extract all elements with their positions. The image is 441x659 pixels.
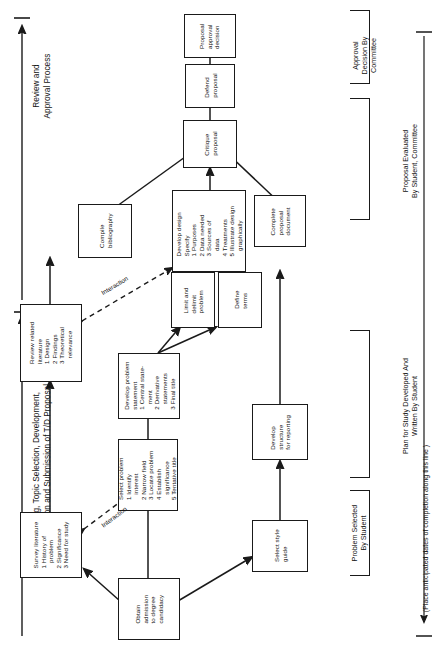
node-label: Defend proposal [202,74,217,99]
node-select-problem[interactable]: Select problem 1 Identify interest 2 Nar… [118,439,178,511]
node-obtain-admission[interactable]: Obtain admission to degree candidacy [118,578,180,640]
node-complete-proposal-document[interactable]: Complete proposal document [254,195,306,247]
node-label: Limit and delimit problem [182,287,205,313]
bracket-label-approval-decision: Approval Decision By Committee [351,15,378,97]
node-label: Critique proposal [202,132,217,157]
node-label: Develop problem statement 1 Central stat… [122,362,175,410]
node-label: Complete proposal document [269,207,292,235]
node-compile-bibliography[interactable]: Compile bibliography [78,204,132,258]
bracket-label-plan-for-study: Plan for Study Developed And Written By … [401,326,419,486]
node-develop-problem-statement[interactable]: Develop problem statement 1 Central stat… [118,353,180,419]
node-limit-delimit-problem[interactable]: Limit and delimit problem [171,272,215,328]
node-label: Define terms [232,291,247,310]
node-define-terms[interactable]: Define terms [218,272,262,328]
node-review-related-literature[interactable]: Review related literature 1 Design 2 Fin… [20,304,82,382]
bracket-label-proposal-evaluated: Proposal Evaluated By Student, Committee [401,83,419,239]
timeline-note: (Place anticipated dates of completion a… [422,419,429,639]
node-label: Select style guide [272,530,287,563]
node-label: Develop design Specify 1 Purposes 2 Data… [175,206,243,256]
phase-two-title: Review and Approval Process [31,26,53,146]
node-develop-structure-for-reporting[interactable]: Develop structure for reporting [252,404,308,460]
node-survey-literature[interactable]: Survey literature 1 History of problem 2… [20,512,82,578]
node-label: Proposal approval decision [199,23,222,48]
edge-label-interaction-lower: Interaction [100,505,128,529]
bracket-proposal-evaluated [350,98,370,220]
flowchart-canvas: Planning, Topic Selection, Development, … [0,0,441,659]
node-proposal-approval-decision[interactable]: Proposal approval decision [184,14,236,58]
node-defend-proposal[interactable]: Defend proposal [185,64,235,108]
edge-label-interaction-upper: Interaction [100,275,129,296]
node-critique-proposal[interactable]: Critique proposal [183,120,237,168]
node-label: Develop structure for reporting [269,415,292,450]
node-select-style-guide[interactable]: Select style guide [252,520,308,572]
node-label: Compile bibliography [97,214,112,249]
node-label: Review related literature 1 Design 2 Fin… [28,322,74,364]
node-label: Survey literature 1 History of problem 2… [32,521,70,568]
node-develop-design[interactable]: Develop design Specify 1 Purposes 2 Data… [172,190,246,272]
node-label: Obtain admission to degree candidacy [134,595,164,624]
bracket-plan-for-study [350,330,370,478]
node-label: Select problem 1 Identify interest 2 Nar… [118,450,178,499]
bracket-label-problem-selected: Problem Selected By Student [350,485,368,581]
